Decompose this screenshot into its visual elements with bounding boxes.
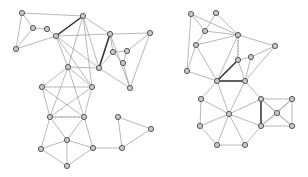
graph-node <box>65 64 70 69</box>
graph-node <box>53 33 58 38</box>
graph-edge-normal <box>41 140 67 149</box>
graph-node <box>213 10 218 15</box>
graph-edge-normal <box>67 117 84 140</box>
graph-node <box>289 123 294 128</box>
graph-node <box>110 49 115 54</box>
graph-edge-normal <box>110 34 130 88</box>
graph-edge-normal <box>68 67 84 117</box>
graph-node <box>242 142 247 147</box>
graph-node <box>226 111 231 116</box>
graph-node <box>148 126 153 131</box>
graph-node <box>274 110 279 115</box>
graph-edge-normal <box>261 99 277 113</box>
graph-edge-normal <box>41 117 50 149</box>
graph-node <box>38 146 43 151</box>
graph-edge-normal <box>110 33 150 34</box>
graph-canvas <box>0 0 308 177</box>
graph-node <box>258 123 263 128</box>
graph-node <box>248 54 253 59</box>
graph-node <box>39 84 44 89</box>
graph-edge-bold <box>99 34 110 68</box>
graph-edge-normal <box>245 126 261 145</box>
graph-edge-bold <box>56 16 83 36</box>
graph-edge-normal <box>201 99 229 114</box>
graph-node <box>124 48 129 53</box>
graph-edge-normal <box>277 99 292 113</box>
graph-edge-normal <box>42 87 84 117</box>
graph-edge-normal <box>122 129 151 148</box>
graph-edge-normal <box>216 13 238 35</box>
graph-edge-normal <box>229 81 245 114</box>
graph-node <box>147 30 152 35</box>
graph-edge-normal <box>84 117 93 148</box>
graph-edge-normal <box>200 114 229 126</box>
graph-edge-normal <box>67 140 93 148</box>
graph-edge-normal <box>68 16 83 67</box>
graph-edge-normal <box>217 81 229 114</box>
graph-node <box>289 96 294 101</box>
graph-edge-normal <box>261 113 277 126</box>
graph-edge-normal <box>22 13 83 16</box>
graph-node <box>115 114 120 119</box>
graph-edge-normal <box>201 81 217 99</box>
graph-edge-normal <box>16 36 56 49</box>
graph-edge-normal <box>50 67 68 117</box>
graph-node <box>272 43 277 48</box>
graph-node <box>235 57 240 62</box>
graph-edge-normal <box>41 149 67 166</box>
graph-node <box>44 26 49 31</box>
graph-figure <box>0 0 308 177</box>
left-graph <box>13 10 153 168</box>
graph-edge-normal <box>196 45 217 81</box>
graph-node <box>64 137 69 142</box>
graph-node <box>13 46 18 51</box>
graph-edge-normal <box>50 87 92 117</box>
graph-edge-normal <box>16 28 33 49</box>
graph-edge-normal <box>251 46 275 57</box>
graph-edge-normal <box>196 35 238 45</box>
graph-edge-normal <box>238 35 275 46</box>
graph-edge-normal <box>187 71 217 81</box>
graph-node <box>197 123 202 128</box>
graph-node <box>19 10 24 15</box>
graph-edge-normal <box>187 14 191 71</box>
graph-node <box>107 31 112 36</box>
graph-node <box>184 68 189 73</box>
graph-node <box>198 96 203 101</box>
graph-edge-normal <box>238 60 245 81</box>
right-graph <box>184 10 294 147</box>
graph-edge-normal <box>50 117 67 140</box>
graph-node <box>188 11 193 16</box>
graph-edge-normal <box>16 13 22 49</box>
graph-edge-normal <box>200 99 201 126</box>
graph-node <box>90 145 95 150</box>
graph-edge-bold <box>217 60 238 81</box>
graph-node <box>214 142 219 147</box>
graph-edge-normal <box>191 14 205 31</box>
graph-node <box>30 25 35 30</box>
graph-edge-normal <box>229 114 245 145</box>
graph-edge-normal <box>56 34 110 36</box>
graph-edge-normal <box>229 114 261 126</box>
graph-node <box>89 84 94 89</box>
graph-edge-normal <box>67 148 93 166</box>
graph-node <box>96 65 101 70</box>
graph-edge-normal <box>217 114 229 145</box>
graph-node <box>258 96 263 101</box>
graph-node <box>80 13 85 18</box>
graph-edge-normal <box>229 99 261 114</box>
graph-node <box>193 42 198 47</box>
graph-edge-normal <box>118 117 122 148</box>
graph-node <box>119 145 124 150</box>
graph-node <box>235 32 240 37</box>
graph-edge-normal <box>200 126 217 145</box>
graph-node <box>47 114 52 119</box>
graph-node <box>242 78 247 83</box>
graph-node <box>127 85 132 90</box>
graph-edge-normal <box>83 16 99 68</box>
graph-edge-normal <box>217 35 238 81</box>
graph-edge-normal <box>118 117 151 129</box>
graph-edge-normal <box>205 13 216 31</box>
right-graph-nodes <box>184 10 294 147</box>
graph-node <box>214 78 219 83</box>
